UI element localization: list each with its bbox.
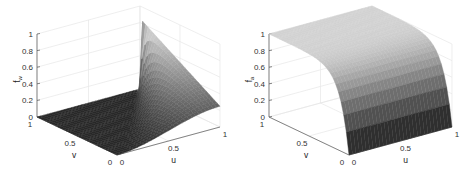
z-tick-label: 1 — [261, 30, 266, 39]
u-axis-label: u — [403, 155, 408, 165]
u-tick-label: 0.5 — [168, 144, 180, 153]
surface — [37, 21, 220, 155]
z-axis-label: fa — [244, 76, 255, 82]
surface-plot-fw: 00.20.40.60.8100.5100.51uvfw — [0, 0, 232, 175]
plot-canvas-fw: 00.20.40.60.8100.5100.51uvfw — [0, 0, 232, 175]
v-tick-label: 0.5 — [296, 139, 308, 148]
u-axis-label: u — [171, 155, 176, 165]
z-tick-label: 0.8 — [254, 47, 266, 56]
z-tick-label: 1 — [29, 30, 34, 39]
z-tick-label: 0.4 — [22, 80, 34, 89]
z-tick-label: 0.4 — [254, 80, 266, 89]
z-tick-label: 0.8 — [22, 47, 34, 56]
u-tick-label: 0 — [352, 158, 357, 167]
z-tick-label: 0.6 — [254, 63, 266, 72]
v-axis-label: v — [72, 150, 77, 160]
surface — [269, 6, 452, 155]
u-tick-label: 0.5 — [400, 144, 412, 153]
v-axis-label: v — [304, 150, 309, 160]
u-tick-label: 1 — [455, 130, 460, 139]
z-axis-label: fw — [12, 75, 23, 82]
v-tick-label: 1 — [260, 120, 265, 129]
z-tick-label: 0.2 — [254, 96, 266, 105]
u-tick-label: 0 — [120, 158, 125, 167]
z-tick-label: 0.6 — [22, 63, 34, 72]
v-tick-label: 0.5 — [64, 139, 76, 148]
z-tick-label: 0.2 — [22, 96, 34, 105]
v-tick-label: 0 — [340, 158, 345, 167]
plot-canvas-fa: 00.20.40.60.8100.5100.51uvfa — [232, 0, 464, 175]
surface-plot-fa: 00.20.40.60.8100.5100.51uvfa — [232, 0, 464, 175]
u-tick-label: 1 — [223, 130, 228, 139]
v-tick-label: 0 — [108, 158, 113, 167]
v-tick-label: 1 — [28, 120, 33, 129]
